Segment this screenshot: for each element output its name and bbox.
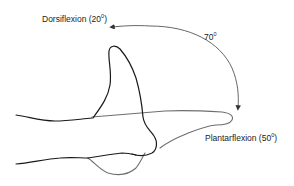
ankle-diagram	[0, 0, 294, 186]
arrow-to-dorsiflexion	[112, 26, 150, 27]
close-paren: )	[274, 133, 277, 143]
arc-to-plantarflexion	[150, 26, 238, 108]
total-arc-label: 700	[204, 33, 217, 42]
plantarflexion-label: Plantarflexion (500)	[205, 134, 277, 143]
dorsiflexion-label: Dorsiflexion (200)	[42, 15, 107, 24]
plantarflexion-text: Plantarflexion (50	[205, 133, 271, 143]
dorsiflexed-foot	[88, 46, 156, 158]
degree-symbol: 0	[213, 31, 216, 37]
dorsiflexion-text: Dorsiflexion (20	[42, 14, 101, 24]
degree-symbol: 0	[101, 13, 104, 19]
leg-outline	[16, 115, 92, 164]
close-paren: )	[104, 14, 107, 24]
degree-symbol: 0	[271, 132, 274, 138]
